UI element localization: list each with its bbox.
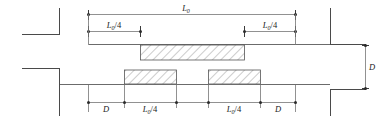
dimension-label-D-bottom-left: D (102, 104, 110, 114)
dimension-top-left-quarter: L0/4 (87, 20, 142, 37)
dimension-label-L0-quarter-bottom-left: L0/4 (142, 104, 158, 115)
dimension-top-total-span: L0 (87, 3, 297, 20)
dimension-label-L0-quarter-top-left: L0/4 (106, 20, 122, 31)
dimension-bottom-chain: D L0/4 L0/4 D (87, 85, 297, 115)
lower-right-reinforcement (209, 70, 261, 84)
dimension-label-L0-quarter-bottom-right: L0/4 (226, 104, 242, 115)
lower-left-reinforcement (125, 70, 177, 84)
dimension-right-vertical-D: D (362, 44, 376, 90)
upper-beam-axis (89, 31, 331, 45)
structural-detail-figure: D L0 L0/4 (0, 0, 389, 123)
dimension-label-D-bottom-right: D (274, 104, 282, 114)
lower-right-column (330, 89, 366, 116)
dimension-label-L0-quarter-top-right: L0/4 (262, 20, 278, 31)
upper-right-column (330, 8, 366, 45)
dimension-label-D-right: D (368, 62, 376, 72)
upper-left-column (22, 8, 60, 35)
lower-left-column (22, 68, 60, 116)
dimension-label-L0-total: L0 (181, 3, 190, 14)
dimension-top-right-quarter: L0/4 (243, 20, 297, 37)
figure-canvas: D L0 L0/4 (0, 0, 389, 123)
upper-beam-reinforcement (141, 45, 245, 60)
